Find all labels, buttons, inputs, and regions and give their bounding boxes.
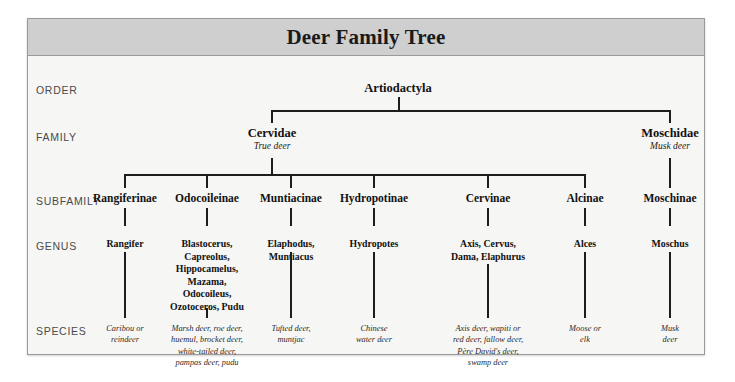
text-line: Alces [574, 238, 596, 251]
text-line: Mazama, [170, 276, 244, 289]
family-name: Cervidae [248, 126, 297, 141]
tree-canvas: ORDER FAMILY SUBFAMILY GENUS SPECIES Art… [28, 56, 704, 354]
text-line: Marsh deer, roe deer, [171, 323, 243, 334]
text-line: Moose or [569, 323, 601, 334]
node-species-cervinae: Axis deer, wapiti orred deer, fallow dee… [453, 323, 523, 368]
text-line: Dama, Elaphurus [451, 251, 525, 264]
text-line: Caribou or [106, 323, 143, 334]
node-subfamily-odocoileinae: Odocoileinae [175, 192, 239, 206]
connector-genus-to-species-alcinae [584, 252, 586, 318]
text-line: Musk deer [653, 323, 687, 346]
node-species-moschinae: Musk deer [653, 323, 687, 346]
text-line: Rangifer [106, 238, 143, 251]
diagram-title-bar: Deer Family Tree [28, 19, 704, 56]
connector-cervidae-to-hydropotinae [373, 174, 375, 188]
node-genus-odocoileinae: Blastocerus,Capreolus,Hippocamelus,Mazam… [170, 238, 244, 313]
node-genus-rangiferinae: Rangifer [106, 238, 143, 251]
text-line: swamp deer [453, 357, 523, 368]
connector-alcinae-to-genus [584, 208, 586, 226]
row-label-family: FAMILY [36, 131, 77, 143]
connector-cervidae-stem [271, 158, 273, 174]
text-line: Hydropotes [350, 238, 399, 251]
connector-muntiacinae-to-genus [290, 208, 292, 226]
connector-odocoileinae-to-genus [206, 208, 208, 226]
row-label-species: SPECIES [36, 325, 86, 337]
subfamily-name: Alcinae [566, 192, 603, 206]
connector-genus-to-species-odocoileinae [206, 308, 208, 318]
node-subfamily-alcinae: Alcinae [566, 192, 603, 206]
text-line: Elaphodus, [267, 238, 314, 251]
connector-moschinae-to-genus [669, 208, 671, 226]
connector-genus-to-species-hydropotinae [373, 252, 375, 318]
node-genus-cervinae: Axis, Cervus,Dama, Elaphurus [451, 238, 525, 263]
node-subfamily-hydropotinae: Hydropotinae [340, 192, 408, 206]
order-name: Artiodactyla [364, 81, 431, 96]
connector-order-stem [398, 97, 400, 110]
connector-genus-to-species-cervinae [487, 264, 489, 318]
node-species-odocoileinae: Marsh deer, roe deer,huemul, brocket dee… [171, 323, 243, 368]
row-label-subfamily: SUBFAMILY [36, 195, 100, 207]
connector-genus-to-species-moschinae [669, 252, 671, 318]
row-label-genus: GENUS [36, 240, 77, 252]
node-species-rangiferinae: Caribou orreindeer [106, 323, 143, 346]
connector-order-bar [271, 110, 670, 112]
page-title: Deer Family Tree [286, 25, 445, 50]
node-subfamily-cervinae: Cervinae [466, 192, 511, 206]
connector-cervidae-to-rangiferinae [124, 174, 126, 188]
node-family-moschidae: Moschidae Musk deer [641, 126, 699, 152]
node-species-hydropotinae: Chinesewater deer [356, 323, 392, 346]
connector-cervidae-to-odocoileinae [206, 174, 208, 188]
connector-rangiferinae-to-genus [124, 208, 126, 226]
subfamily-name: Muntiacinae [260, 192, 322, 206]
connector-cervidae-to-alcinae [584, 174, 586, 188]
subfamily-name: Hydropotinae [340, 192, 408, 206]
text-line: elk [569, 334, 601, 345]
text-line: white-tailed deer, [171, 346, 243, 357]
text-line: Moschus [651, 238, 688, 251]
node-family-cervidae: Cervidae True deer [248, 126, 297, 152]
text-line: Blastocerus, [170, 238, 244, 251]
text-line: red deer, fallow deer, [453, 334, 523, 345]
node-species-alcinae: Moose orelk [569, 323, 601, 346]
family-common: Musk deer [641, 141, 699, 152]
connector-hydropotinae-to-genus [373, 208, 375, 226]
text-line: Père David's deer, [453, 346, 523, 357]
text-line: Odocoileus, [170, 288, 244, 301]
text-line: water deer [356, 334, 392, 345]
connector-order-to-cervidae [271, 110, 273, 123]
text-line: Chinese [356, 323, 392, 334]
text-line: Tufted deer, [271, 323, 310, 334]
family-name: Moschidae [641, 126, 699, 141]
text-line: Axis, Cervus, [451, 238, 525, 251]
text-line: huemul, brocket deer, [171, 334, 243, 345]
row-label-order: ORDER [36, 84, 77, 96]
connector-order-to-moschidae [669, 110, 671, 123]
text-line: Axis deer, wapiti or [453, 323, 523, 334]
subfamily-name: Cervinae [466, 192, 511, 206]
connector-genus-to-species-muntiacinae [290, 252, 292, 318]
diagram-panel: Deer Family Tree ORDER FAMILY SUBFAMILY … [27, 18, 705, 355]
connector-moschidae-to-moschinae [669, 158, 671, 188]
subfamily-name: Moschinae [643, 192, 696, 206]
family-common: True deer [248, 141, 297, 152]
node-order-artiodactyla: Artiodactyla [364, 81, 431, 96]
connector-cervinae-to-genus [487, 208, 489, 226]
text-line: muntjac [271, 334, 310, 345]
connector-cervidae-to-muntiacinae [290, 174, 292, 188]
node-genus-alcinae: Alces [574, 238, 596, 251]
node-genus-moschus: Moschus [651, 238, 688, 251]
node-genus-hydropotinae: Hydropotes [350, 238, 399, 251]
connector-genus-to-species-rangiferinae [124, 252, 126, 318]
connector-cervidae-to-cervinae [487, 174, 489, 188]
subfamily-name: Odocoileinae [175, 192, 239, 206]
text-line: pampas deer, pudu [171, 357, 243, 368]
node-subfamily-rangiferinae: Rangiferinae [93, 192, 157, 206]
text-line: Hippocamelus, [170, 263, 244, 276]
node-subfamily-moschinae: Moschinae [643, 192, 696, 206]
node-species-muntiacinae: Tufted deer,muntjac [271, 323, 310, 346]
connector-cervidae-bar [124, 174, 584, 176]
node-subfamily-muntiacinae: Muntiacinae [260, 192, 322, 206]
text-line: Capreolus, [170, 251, 244, 264]
subfamily-name: Rangiferinae [93, 192, 157, 206]
text-line: reindeer [106, 334, 143, 345]
